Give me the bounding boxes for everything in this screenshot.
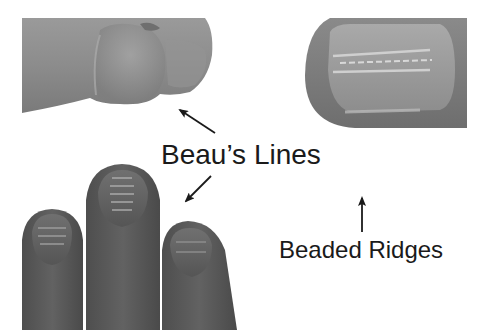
arrow-beaus-lines-up-left — [180, 110, 215, 133]
arrow-beaus-lines-down-left — [186, 176, 211, 201]
label-beaus-lines: Beau’s Lines — [161, 139, 321, 171]
label-beaded-ridges: Beaded Ridges — [279, 236, 443, 264]
